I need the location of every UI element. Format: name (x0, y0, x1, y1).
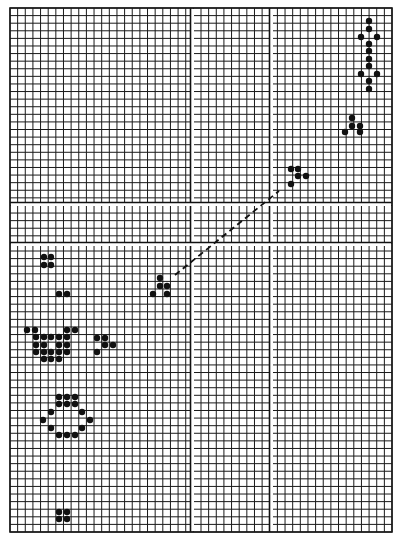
live-cell-dot (41, 262, 47, 268)
live-cell-dot (33, 342, 39, 348)
live-cell-dot (157, 275, 163, 281)
live-cell-dot (48, 334, 54, 340)
live-cell-dot (349, 115, 355, 121)
live-cell-dot (295, 173, 301, 179)
live-cell-dot (374, 34, 380, 40)
live-cell-dot (349, 123, 355, 129)
live-cell-dot (64, 509, 70, 515)
live-cell-dot (110, 342, 116, 348)
live-cell-dot (358, 34, 364, 40)
live-cell-dot (288, 166, 294, 172)
vertical-gap-stripe (191, 9, 194, 531)
live-cell-dot (366, 41, 372, 47)
live-cell-dot (64, 432, 70, 438)
live-cell-dot (87, 417, 93, 423)
live-cell-dot (33, 334, 39, 340)
live-cell-dot (48, 349, 54, 355)
live-cell-dot (64, 291, 70, 297)
live-cell-dot (342, 129, 348, 135)
live-cell-dot (366, 86, 372, 92)
live-cell-dot (56, 356, 62, 362)
live-cell-dot (366, 26, 372, 32)
live-cell-dot (366, 18, 372, 24)
live-cell-dot (366, 78, 372, 84)
live-cell-dot (33, 349, 39, 355)
live-cell-dot (56, 401, 62, 407)
live-cell-dot (64, 327, 70, 333)
vertical-gap-stripe (270, 9, 273, 531)
live-cell-dot (24, 327, 30, 333)
live-cell-dot (374, 71, 380, 77)
live-cell-dot (94, 335, 100, 341)
live-cell-dot (41, 349, 47, 355)
life-grid-diagram (0, 0, 402, 543)
live-cell-dot (56, 509, 62, 515)
live-cell-dot (64, 342, 70, 348)
live-cell-dot (157, 283, 163, 289)
live-cell-dot (48, 356, 54, 362)
live-cell-dot (48, 262, 54, 268)
live-cells (24, 18, 380, 522)
live-cell-dot (295, 166, 301, 172)
pattern-glider-upper (288, 166, 309, 187)
live-cell-dot (56, 334, 62, 340)
live-cell-dot (64, 334, 70, 340)
live-cell-dot (41, 342, 47, 348)
live-cell-dot (94, 349, 100, 355)
live-cell-dot (288, 181, 294, 187)
live-cell-dot (357, 129, 363, 135)
live-cell-dot (56, 342, 62, 348)
live-cell-dot (72, 327, 78, 333)
live-cell-dot (32, 327, 38, 333)
live-cell-dot (72, 394, 78, 400)
live-cell-dot (150, 291, 156, 297)
live-cell-dot (366, 63, 372, 69)
live-cell-dot (64, 516, 70, 522)
pattern-glider-left (94, 335, 116, 355)
live-cell-dot (357, 123, 363, 129)
grid-lines (10, 8, 392, 532)
live-cell-dot (64, 401, 70, 407)
pattern-glider-lower (150, 275, 170, 297)
horizontal-gap-stripe (11, 203, 391, 206)
live-cell-dot (48, 425, 54, 431)
live-cell-dot (56, 516, 62, 522)
live-cell-dot (64, 349, 70, 355)
live-cell-dot (79, 425, 85, 431)
live-cell-dot (303, 173, 309, 179)
live-cell-dot (64, 394, 70, 400)
live-cell-dot (56, 394, 62, 400)
live-cell-dot (41, 254, 47, 260)
live-cell-dot (102, 342, 108, 348)
live-cell-dot (358, 71, 364, 77)
live-cell-dot (48, 409, 54, 415)
live-cell-dot (72, 432, 78, 438)
live-cell-dot (56, 291, 62, 297)
live-cell-dot (41, 356, 47, 362)
live-cell-dot (72, 401, 78, 407)
live-cell-dot (102, 335, 108, 341)
live-cell-dot (164, 283, 170, 289)
pattern-glider-top-right (342, 115, 363, 135)
live-cell-dot (40, 417, 46, 423)
live-cell-dot (164, 291, 170, 297)
live-cell-dot (366, 56, 372, 62)
live-cell-dot (48, 254, 54, 260)
live-cell-dot (56, 432, 62, 438)
live-cell-dot (366, 48, 372, 54)
live-cell-dot (41, 334, 47, 340)
live-cell-dot (56, 349, 62, 355)
live-cell-dot (79, 409, 85, 415)
horizontal-gap-stripe (11, 243, 391, 246)
